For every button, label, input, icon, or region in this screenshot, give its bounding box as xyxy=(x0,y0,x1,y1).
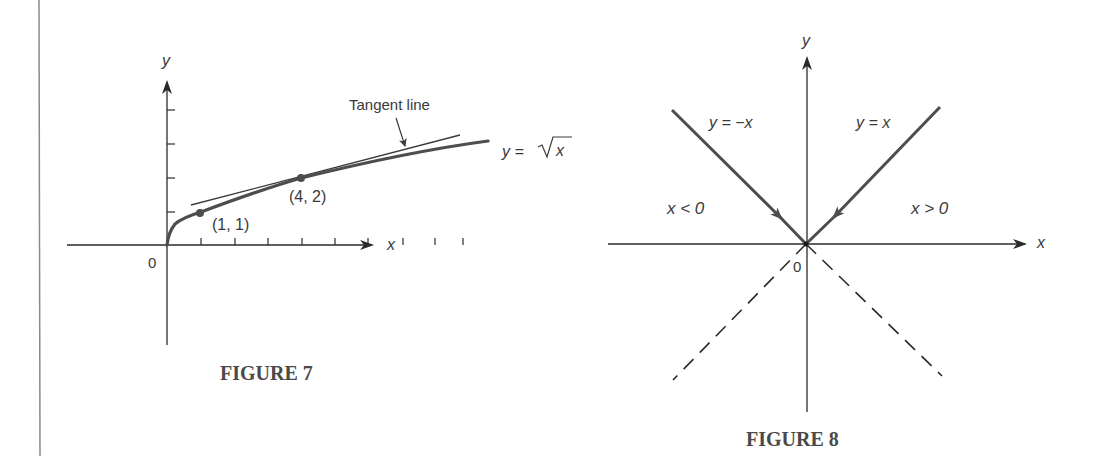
figures-canvas: y x 0 (1, 1) (4, 2) Tangent line y = x F… xyxy=(0,0,1095,471)
figure-8: y x 0 y = −x y = x x < 0 x > 0 FIGURE 8 xyxy=(608,32,1046,450)
line-y-equals-neg-x-tail xyxy=(779,216,806,244)
margin-rule xyxy=(39,0,40,456)
point-4-2 xyxy=(297,174,305,182)
origin-point xyxy=(804,242,809,247)
tangent-pointer-arrow xyxy=(396,118,405,146)
radical-sign xyxy=(538,137,572,157)
figure-7-caption: FIGURE 7 xyxy=(220,362,313,384)
x-ticks xyxy=(201,238,463,245)
line-right-label: y = x xyxy=(855,114,891,131)
line-left-label: y = −x xyxy=(708,114,754,131)
point-label-1-1: (1, 1) xyxy=(212,216,249,233)
y-axis-label: y xyxy=(161,52,171,69)
region-left-label: x < 0 xyxy=(666,199,705,218)
y-axis-label: y xyxy=(801,32,811,49)
origin-label: 0 xyxy=(148,254,156,271)
textbook-page: y x 0 (1, 1) (4, 2) Tangent line y = x F… xyxy=(0,0,1095,471)
curve-label-y: y = xyxy=(501,143,524,160)
dashed-line-lower-left xyxy=(673,244,806,380)
dashed-line-lower-right xyxy=(806,244,942,376)
figure-7: y x 0 (1, 1) (4, 2) Tangent line y = x F… xyxy=(67,52,572,384)
line-y-equals-x-tail xyxy=(806,215,836,244)
point-1-1 xyxy=(196,209,204,217)
curve-label-radicand: x xyxy=(555,142,565,159)
x-axis-label: x xyxy=(1036,234,1046,251)
point-label-4-2: (4, 2) xyxy=(289,188,326,205)
curve-equation-label: y = x xyxy=(501,137,572,160)
region-right-label: x > 0 xyxy=(910,199,949,218)
x-axis-label: x xyxy=(386,236,396,253)
origin-label: 0 xyxy=(793,258,801,275)
figure-8-caption: FIGURE 8 xyxy=(746,428,839,450)
tangent-line-label: Tangent line xyxy=(349,96,430,113)
y-ticks xyxy=(167,110,175,212)
